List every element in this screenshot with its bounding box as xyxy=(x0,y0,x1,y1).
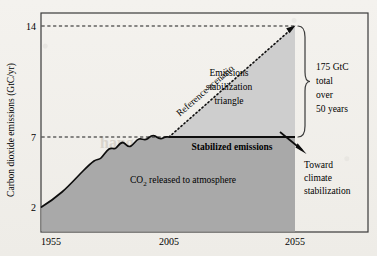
xtick-2055: 2055 xyxy=(285,236,305,247)
brace-label-line4: 50 years xyxy=(316,104,348,114)
ytick-7: 7 xyxy=(31,132,36,143)
brace-label-line3: over xyxy=(316,90,334,100)
co2-released-label-pre: CO xyxy=(130,175,143,185)
co2-released-label-post: released to atmosphere xyxy=(147,175,236,185)
toward-stabilization-line3: stabilization xyxy=(304,186,351,196)
triangle-label-line2: stabilization xyxy=(206,82,253,92)
toward-stabilization-line2: climate xyxy=(304,173,332,183)
triangle-label-line3: triangle xyxy=(214,96,243,106)
y-axis-label: Carbon dioxide emissions (GtC/yr) xyxy=(6,63,17,197)
brace-label-line2: total xyxy=(316,76,333,86)
toward-stabilization-line1: Toward xyxy=(304,160,333,170)
xtick-2005: 2005 xyxy=(159,236,179,247)
triangle-label-line1: Emissions xyxy=(209,68,248,78)
stabilized-emissions-label: Stabilized emissions xyxy=(191,142,272,152)
toward-stabilization-arrowhead xyxy=(296,143,307,154)
brace-label-line1: 175 GtC xyxy=(316,62,348,72)
emissions-stabilization-figure: hange 14 7 2 1955 2005 2055 Carbon dioxi… xyxy=(0,0,377,256)
xtick-1955: 1955 xyxy=(41,236,61,247)
ytick-14: 14 xyxy=(26,21,36,32)
ytick-2: 2 xyxy=(31,202,36,213)
gtc-total-brace xyxy=(298,26,310,137)
